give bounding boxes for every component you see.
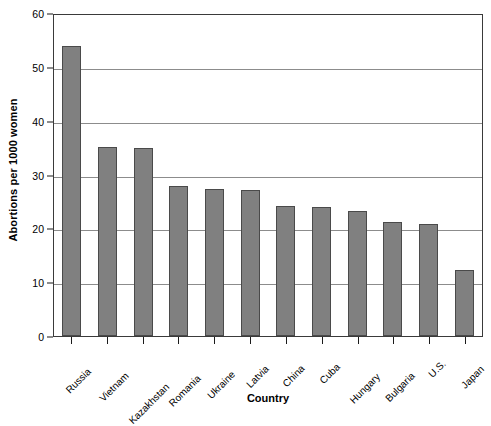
y-axis-tick-labels: 0102030405060 <box>20 0 44 345</box>
bar-slot <box>197 15 233 336</box>
bar <box>205 189 224 337</box>
bar-slot <box>375 15 411 336</box>
y-axis-tick-label: 40 <box>20 116 44 127</box>
y-axis-tick-label: 60 <box>20 9 44 20</box>
bar <box>455 270 474 336</box>
bar <box>383 222 402 336</box>
x-axis-tick-label: Russia <box>64 367 93 396</box>
x-axis-tick-mark <box>429 337 430 344</box>
bar <box>419 224 438 336</box>
bar-slot <box>446 15 482 336</box>
x-axis-tick-mark <box>214 337 215 344</box>
x-axis-tick-mark <box>143 337 144 344</box>
x-axis-tick-mark <box>286 337 287 344</box>
x-axis-tick-label: Japan <box>460 364 486 390</box>
bar <box>134 148 153 336</box>
x-axis-title: Country <box>53 392 483 404</box>
y-axis-tick-label: 0 <box>20 332 44 343</box>
x-axis-tick-mark <box>250 337 251 344</box>
bar <box>348 211 367 336</box>
y-axis-tick-mark <box>47 175 53 176</box>
x-axis-tick-mark <box>71 337 72 344</box>
y-axis-tick-mark <box>47 229 53 230</box>
y-axis-tick-mark <box>47 14 53 15</box>
x-axis-tick-labels: RussiaVietnamKazakhstanRomaniaUkraineLat… <box>53 345 483 393</box>
x-axis-tick-mark <box>322 337 323 344</box>
bar <box>241 190 260 336</box>
y-axis-tick-mark <box>47 121 53 122</box>
bar-slot <box>411 15 447 336</box>
x-axis-tick-mark <box>178 337 179 344</box>
x-axis-tick-label: U.S. <box>427 359 448 380</box>
y-axis-title-text: Abortions per 1000 women <box>6 99 18 242</box>
bar-slot <box>304 15 340 336</box>
bar <box>276 206 295 336</box>
bar-slot <box>161 15 197 336</box>
bar-slot <box>125 15 161 336</box>
bar <box>98 147 117 336</box>
bar <box>169 186 188 336</box>
plot-area <box>53 14 483 337</box>
y-axis-tick-mark <box>47 283 53 284</box>
x-axis-tick-marks <box>53 337 483 344</box>
bars-container <box>54 15 482 336</box>
y-axis-tick-mark <box>47 337 53 338</box>
x-axis-tick-mark <box>465 337 466 344</box>
y-axis-tick-label: 50 <box>20 63 44 74</box>
bar <box>62 46 81 336</box>
x-axis-tick-mark <box>393 337 394 344</box>
y-axis-tick-label: 20 <box>20 224 44 235</box>
x-axis-tick-label: Cuba <box>318 362 342 386</box>
y-axis-tick-mark <box>47 67 53 68</box>
bar-slot <box>232 15 268 336</box>
bar <box>312 207 331 336</box>
x-axis-tick-mark <box>358 337 359 344</box>
x-axis-tick-label: China <box>281 363 307 389</box>
bar-slot <box>90 15 126 336</box>
bar-slot <box>339 15 375 336</box>
bar-slot <box>268 15 304 336</box>
y-axis-tick-label: 30 <box>20 170 44 181</box>
x-axis-tick-label: Latvia <box>245 364 271 390</box>
x-axis-tick-mark <box>107 337 108 344</box>
bar-slot <box>54 15 90 336</box>
y-axis-tick-label: 10 <box>20 278 44 289</box>
